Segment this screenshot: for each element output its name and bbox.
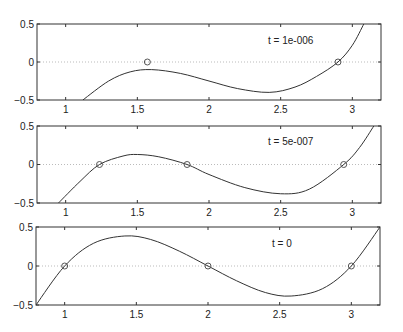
y-tick-label: 0 bbox=[27, 261, 33, 272]
x-tick-label: 2.5 bbox=[274, 104, 288, 115]
x-tick-label: 1 bbox=[62, 309, 68, 320]
x-tick-label: 2 bbox=[206, 207, 212, 218]
subplot-bottom: t = 0 11.522.53−0.500.5 bbox=[13, 222, 380, 321]
panel-annotation: t = 5e-007 bbox=[268, 136, 314, 147]
y-tick-label: 0.5 bbox=[20, 19, 34, 30]
y-tick-label: −0.5 bbox=[14, 95, 34, 106]
polynomial-curve bbox=[59, 126, 374, 203]
x-tick-label: 2 bbox=[206, 104, 212, 115]
y-tick-label: 0 bbox=[28, 57, 34, 68]
subplot-top: t = 1e-006 11.522.53−0.500.5 bbox=[14, 19, 381, 116]
y-tick-label: −0.5 bbox=[14, 198, 34, 209]
x-tick-label: 1 bbox=[63, 104, 69, 115]
x-tick-label: 2.5 bbox=[273, 309, 287, 320]
x-tick-label: 2 bbox=[205, 309, 211, 320]
y-tick-label: 0 bbox=[28, 159, 34, 170]
x-tick-label: 3 bbox=[350, 104, 356, 115]
x-tick-label: 1 bbox=[63, 207, 69, 218]
x-tick-label: 2.5 bbox=[274, 207, 288, 218]
x-tick-label: 1.5 bbox=[130, 207, 144, 218]
figure: t = 1e-006 11.522.53−0.500.5 t = 5e-007 … bbox=[0, 0, 403, 332]
subplot-middle: t = 5e-007 11.522.53−0.500.5 bbox=[14, 121, 381, 219]
panel-annotation: t = 0 bbox=[272, 238, 292, 249]
x-tick-label: 1.5 bbox=[130, 104, 144, 115]
x-tick-label: 3 bbox=[350, 207, 356, 218]
y-tick-label: 0.5 bbox=[19, 222, 33, 233]
panel-annotation: t = 1e-006 bbox=[268, 35, 314, 46]
x-tick-label: 1.5 bbox=[129, 309, 143, 320]
y-tick-label: −0.5 bbox=[13, 300, 33, 311]
y-tick-label: 0.5 bbox=[20, 121, 34, 132]
x-tick-label: 3 bbox=[349, 309, 355, 320]
